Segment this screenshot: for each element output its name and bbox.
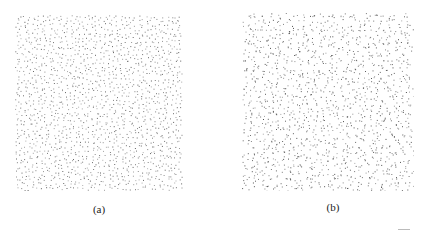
- dot: [265, 84, 266, 85]
- dot: [309, 185, 310, 186]
- dot: [169, 20, 170, 21]
- dot: [54, 162, 55, 163]
- dot: [280, 51, 281, 52]
- dot: [20, 135, 21, 136]
- dot: [334, 139, 335, 140]
- dot: [304, 145, 305, 146]
- dot: [63, 179, 64, 180]
- dot: [118, 103, 119, 104]
- dot: [357, 37, 358, 38]
- dot: [315, 57, 316, 58]
- dot: [257, 101, 258, 102]
- dot: [405, 114, 406, 115]
- dot: [159, 67, 160, 68]
- dot: [82, 73, 83, 74]
- dot: [19, 29, 20, 30]
- dot: [269, 132, 270, 133]
- dot: [286, 13, 287, 14]
- dot: [164, 108, 165, 109]
- dot: [331, 94, 332, 95]
- dot: [32, 48, 33, 49]
- dot: [120, 68, 121, 69]
- dot: [279, 43, 280, 44]
- dot: [268, 56, 269, 57]
- dot: [166, 33, 167, 34]
- dot: [151, 81, 152, 82]
- dot: [372, 55, 373, 56]
- dot: [342, 36, 343, 37]
- dot: [42, 104, 43, 105]
- dot: [373, 152, 374, 153]
- dot: [317, 111, 318, 112]
- dot: [377, 35, 378, 36]
- dot: [44, 103, 45, 104]
- dot: [128, 74, 129, 75]
- dot: [112, 34, 113, 35]
- dot: [290, 72, 291, 73]
- dot: [105, 133, 106, 134]
- dot: [150, 46, 151, 47]
- dot: [273, 112, 274, 113]
- dot: [45, 128, 46, 129]
- dot: [68, 172, 69, 173]
- dot: [356, 43, 357, 44]
- dot: [158, 42, 159, 43]
- dot: [303, 15, 304, 16]
- dot: [304, 120, 305, 121]
- dot: [329, 39, 330, 40]
- dot: [19, 95, 20, 96]
- dot: [123, 128, 124, 129]
- dot: [51, 147, 52, 148]
- dot: [155, 26, 156, 27]
- dot: [363, 111, 364, 112]
- dot: [56, 110, 57, 111]
- dot: [250, 130, 251, 131]
- dot: [88, 138, 89, 139]
- dot: [108, 165, 109, 166]
- dot: [36, 138, 37, 139]
- dot: [362, 130, 363, 131]
- dot: [285, 94, 286, 95]
- dot: [336, 68, 337, 69]
- dot: [27, 30, 28, 31]
- dot: [53, 61, 54, 62]
- dot: [54, 177, 55, 178]
- dot: [275, 29, 276, 30]
- dot: [326, 149, 327, 150]
- dot: [179, 152, 180, 153]
- dot: [62, 90, 63, 91]
- dot: [53, 150, 54, 151]
- dot: [181, 100, 182, 101]
- dot: [82, 128, 83, 129]
- dot: [275, 38, 276, 39]
- dot: [405, 37, 406, 38]
- dot: [307, 177, 308, 178]
- dot: [395, 167, 396, 168]
- dot: [57, 149, 58, 150]
- dot: [379, 123, 380, 124]
- dot: [57, 62, 58, 63]
- dot: [40, 183, 41, 184]
- dot: [117, 33, 118, 34]
- dot: [16, 145, 17, 146]
- dot: [156, 176, 157, 177]
- dot: [289, 125, 290, 126]
- dot: [53, 19, 54, 20]
- dot: [45, 158, 46, 159]
- dot: [67, 21, 68, 22]
- dot: [50, 124, 51, 125]
- dot: [267, 62, 268, 63]
- dot: [289, 40, 290, 41]
- dot: [303, 77, 304, 78]
- dot: [244, 132, 245, 133]
- dot: [292, 95, 293, 96]
- dot: [38, 75, 39, 76]
- dot: [392, 20, 393, 21]
- dot: [24, 74, 25, 75]
- dot: [280, 129, 281, 130]
- dot: [396, 189, 397, 190]
- dot: [408, 87, 409, 88]
- dot: [120, 49, 121, 50]
- dot: [67, 166, 68, 167]
- dot: [79, 39, 80, 40]
